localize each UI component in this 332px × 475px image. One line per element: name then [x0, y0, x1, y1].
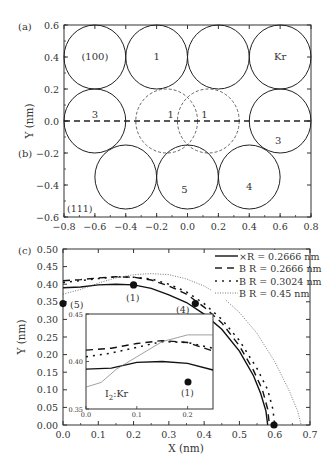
- x-tick-label: 0.8: [303, 221, 318, 232]
- x-tick-label: 0.1: [91, 429, 106, 440]
- inset-x-tick-label: 0.2: [182, 411, 192, 419]
- legend-item-3: B R = 0.45 nm: [239, 288, 309, 299]
- legend-item-0: ×R = 0.2666 nm: [239, 251, 320, 262]
- x-tick-label: 0.0: [55, 429, 70, 440]
- y-tick-label: −0.2: [36, 148, 59, 159]
- y-tick-label: 0.4: [44, 52, 59, 63]
- y-tick-label: −0.6: [36, 212, 59, 223]
- atom-circle: [157, 145, 219, 209]
- y-tick-label: 0.25: [37, 332, 58, 343]
- x-tick-label: 0.6: [273, 221, 288, 232]
- inset-marker-1-label: (1): [181, 388, 194, 398]
- y-tick-label: 0.30: [37, 314, 58, 325]
- panel-a-label: (a): [18, 21, 32, 32]
- circle-label: 4: [246, 181, 252, 192]
- legend: ×R = 0.2666 nm B R = 0.2666 nm B R = 0.3…: [212, 250, 322, 300]
- circle-label: 1: [167, 109, 173, 120]
- y-axis-label-top: Y (nm): [23, 103, 35, 139]
- y-tick-label: 0.00: [37, 420, 58, 431]
- atom-circle: [95, 145, 157, 209]
- inset-y-tick-label: 0.35: [69, 406, 83, 414]
- y-tick-label: 0.6: [44, 20, 59, 31]
- atom-circle: [218, 145, 280, 209]
- figure: (100)1Kr331154 (a) (b) (111) Y (nm) −0.8…: [0, 0, 332, 475]
- y-tick-label: 0.20: [37, 349, 58, 360]
- inset-y-tick-label: 0.45: [69, 311, 83, 319]
- circle-label: 5: [181, 184, 187, 195]
- circle-label: 3: [275, 135, 281, 146]
- x-tick-label: 0.5: [232, 429, 247, 440]
- y-tick-label: 0.2: [44, 84, 59, 95]
- legend-item-2: B R = 0.3024 nm: [239, 276, 322, 287]
- y-axis-label-bottom: Y (nm): [15, 319, 27, 355]
- panel-c: 0.00.10.20.30.40.50.60.70.000.050.100.15…: [15, 244, 322, 455]
- face-111-label: (111): [67, 203, 93, 214]
- marker-5-label: (5): [70, 299, 83, 310]
- x-tick-label: −0.6: [83, 221, 106, 232]
- y-tick-label: 0.40: [37, 279, 58, 290]
- x-tick-label: −0.8: [52, 221, 75, 232]
- x-tick-label: 0.3: [161, 429, 176, 440]
- y-tick-label: 0.45: [37, 261, 58, 272]
- x-tick-label: 0.0: [180, 221, 195, 232]
- data-marker: [59, 300, 66, 307]
- y-tick-label: 0.10: [37, 384, 58, 395]
- circle-label: 1: [201, 109, 207, 120]
- panel-b-label: (b): [18, 148, 32, 159]
- x-tick-label: −0.2: [145, 221, 168, 232]
- x-tick-label: 0.7: [302, 429, 317, 440]
- inset-chart: 0.00.10.20.350.400.45 (1) I2:Kr: [69, 311, 213, 420]
- y-tick-label: 0.50: [37, 244, 58, 255]
- inset-label-rest: :Kr: [113, 388, 128, 399]
- legend-item-1: B R = 0.2666 nm: [239, 263, 322, 274]
- y-tick-label: 0.0: [44, 116, 59, 127]
- circle-label: 1: [153, 51, 159, 62]
- circle-label: (100): [81, 51, 108, 62]
- panel-c-label: (c): [18, 245, 32, 256]
- x-tick-label: 0.2: [211, 221, 226, 232]
- x-tick-label: 0.4: [197, 429, 212, 440]
- inset-y-tick-label: 0.40: [69, 358, 83, 366]
- y-tick-label: 0.05: [37, 402, 58, 413]
- marker-4-label: (4): [176, 304, 189, 315]
- data-marker: [130, 281, 137, 288]
- circle-label: 3: [92, 109, 98, 120]
- x-tick-label: 0.6: [267, 429, 282, 440]
- y-tick-label: −0.4: [36, 180, 59, 191]
- x-tick-label: 0.4: [242, 221, 257, 232]
- data-marker: [270, 421, 277, 428]
- atom-circle: [188, 25, 250, 89]
- x-axis-label-bottom: X (nm): [168, 442, 204, 454]
- panel-ab: (100)1Kr331154 (a) (b) (111) Y (nm) −0.8…: [18, 20, 319, 233]
- x-tick-label: 0.2: [126, 429, 141, 440]
- y-tick-label: 0.15: [37, 367, 58, 378]
- inset-x-tick-label: 0.1: [132, 411, 142, 419]
- data-marker: [192, 300, 199, 307]
- x-tick-label: −0.4: [114, 221, 137, 232]
- marker-1-label: (1): [126, 292, 139, 303]
- y-tick-label: 0.35: [37, 296, 58, 307]
- circle-label: Kr: [274, 51, 286, 62]
- inset-marker-1: [185, 379, 192, 386]
